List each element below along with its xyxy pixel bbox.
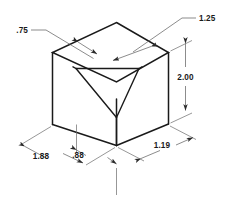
top-face-edges xyxy=(53,23,169,83)
ext-depth-end xyxy=(86,148,115,166)
isometric-block-drawing: .75 1.25 2.00 1.88 xyxy=(0,0,232,213)
ext-height-bottom xyxy=(171,113,193,123)
ext-width-start xyxy=(118,148,144,162)
groove-left-wall xyxy=(76,69,117,118)
dim-line-offset-2 xyxy=(108,158,117,165)
dim-label-groove-left-width: .75 xyxy=(16,26,28,35)
leader-75 xyxy=(31,30,94,59)
dim-label-block-width: 1.19 xyxy=(154,141,171,150)
dim-seg-75 xyxy=(78,42,97,54)
dimension-groove-right-width: 1.25 xyxy=(113,14,216,61)
dim-line-width xyxy=(141,151,160,159)
ext-height-top xyxy=(171,41,193,52)
dim-label-block-height: 2.00 xyxy=(177,73,194,82)
dimension-groove-left-width: .75 xyxy=(16,26,97,59)
groove-mouth-left-corner xyxy=(73,67,76,69)
block-solid xyxy=(53,23,169,146)
technical-drawing-canvas: .75 1.25 2.00 1.88 xyxy=(0,0,232,213)
leader-125 xyxy=(133,18,196,52)
dim-label-groove-right-width: 1.25 xyxy=(199,14,216,23)
ext-depth-start xyxy=(22,127,51,145)
dim-label-groove-offset: .88 xyxy=(72,151,84,160)
dim-seg-125 xyxy=(113,47,151,61)
dimension-block-depth: 1.88 xyxy=(22,127,115,166)
dim-label-block-depth: 1.88 xyxy=(33,152,50,161)
dim-line-width-2 xyxy=(176,138,193,146)
bottom-left-edge xyxy=(53,125,117,146)
ext-width-end xyxy=(170,126,196,140)
dimension-block-height: 2.00 xyxy=(171,41,195,124)
dimension-block-width: 1.19 xyxy=(118,126,196,161)
